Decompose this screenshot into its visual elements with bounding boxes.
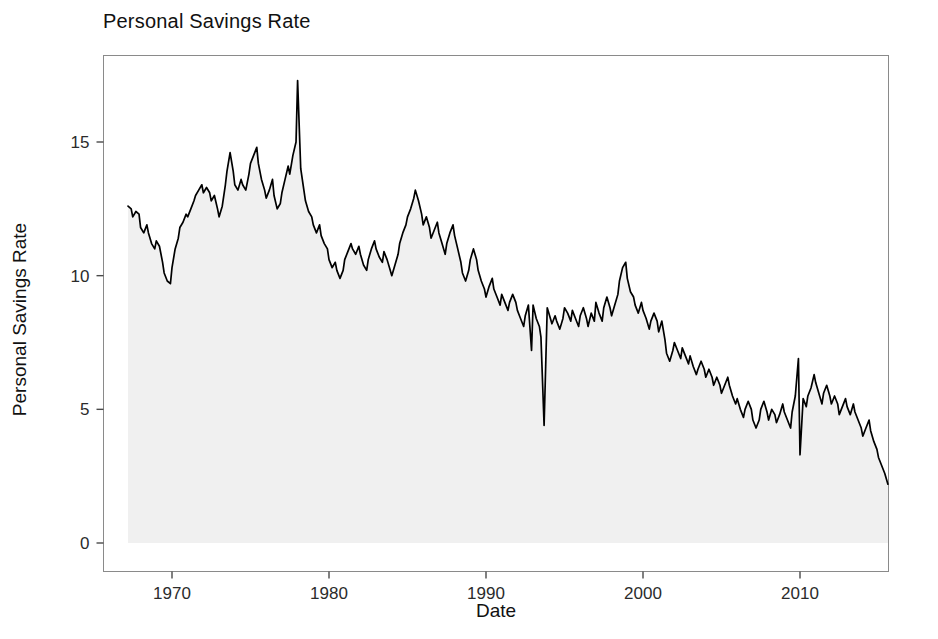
x-tick-label: 2000 xyxy=(624,584,662,603)
x-tick-label: 1970 xyxy=(153,584,191,603)
y-tick-label: 10 xyxy=(71,267,90,286)
y-tick-label: 5 xyxy=(80,400,89,419)
plot-area: 051015 19701980199020002010 xyxy=(0,0,938,639)
x-axis-ticks: 19701980199020002010 xyxy=(153,572,819,603)
x-tick-label: 1980 xyxy=(310,584,348,603)
y-tick-label: 15 xyxy=(71,133,90,152)
x-tick-label: 1990 xyxy=(467,584,505,603)
y-axis-ticks: 051015 xyxy=(71,133,104,553)
y-tick-label: 0 xyxy=(80,534,89,553)
chart-figure: Personal Savings Rate Personal Savings R… xyxy=(0,0,938,639)
x-tick-label: 2010 xyxy=(781,584,819,603)
